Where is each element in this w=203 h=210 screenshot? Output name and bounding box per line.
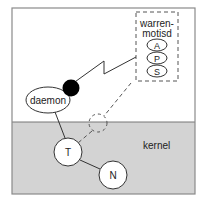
black-dot — [63, 80, 80, 97]
process-title-line2: motisd — [142, 28, 171, 39]
item-a-label: A — [154, 41, 160, 51]
item-p-label: P — [154, 54, 160, 64]
kernel-label: kernel — [143, 140, 170, 151]
diagram: kernel warren- motisd A P S daemon T N — [0, 0, 203, 210]
n-label: N — [109, 170, 116, 181]
lightning-connection — [72, 57, 136, 84]
dashed-connection-upper — [104, 83, 131, 116]
daemon-label: daemon — [30, 95, 66, 106]
t-label: T — [65, 147, 71, 158]
item-s-label: S — [154, 67, 160, 77]
